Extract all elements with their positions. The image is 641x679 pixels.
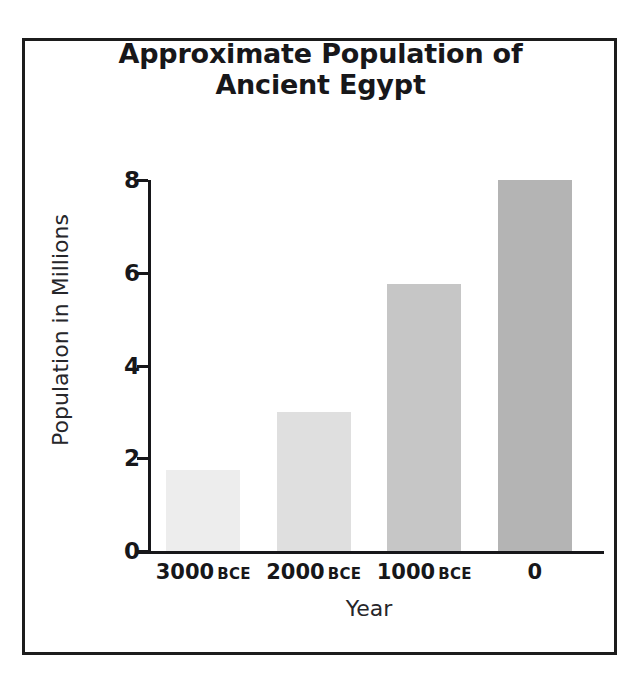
y-tick-label: 4 — [124, 353, 140, 379]
y-tick-label: 8 — [124, 167, 140, 193]
x-axis-line — [138, 551, 604, 554]
x-tick-year: 1000 — [377, 560, 435, 584]
plot-area: 02468 — [148, 180, 590, 551]
y-axis-title: Population in Millions — [48, 190, 73, 470]
x-tick-year: 0 — [527, 560, 542, 584]
y-tick-label: 6 — [124, 260, 140, 286]
x-tick-label-0: 3000BCE — [148, 560, 259, 584]
y-axis-line — [148, 180, 151, 551]
bar-0 — [498, 180, 572, 551]
bar-2000-bce — [277, 412, 351, 551]
bar-1000-bce — [387, 284, 461, 551]
x-tick-era: BCE — [328, 565, 362, 583]
x-tick-label-2: 1000BCE — [369, 560, 480, 584]
x-tick-era: BCE — [217, 565, 251, 583]
x-tick-label-1: 2000BCE — [259, 560, 370, 584]
chart-title-line-1: Approximate Population of — [0, 38, 641, 69]
x-tick-year: 3000 — [156, 560, 214, 584]
chart-title-line-2: Ancient Egypt — [0, 69, 641, 100]
bar-3000-bce — [166, 470, 240, 551]
y-tick-label: 0 — [124, 538, 140, 564]
chart-title: Approximate Population of Ancient Egypt — [0, 38, 641, 101]
x-tick-label-3: 0 — [480, 560, 591, 584]
y-tick-label: 2 — [124, 445, 140, 471]
x-tick-era: BCE — [438, 565, 472, 583]
x-axis-title: Year — [148, 596, 590, 621]
x-tick-year: 2000 — [266, 560, 324, 584]
